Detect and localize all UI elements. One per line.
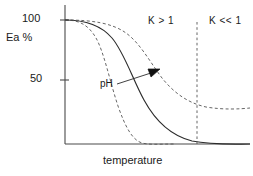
y-tick-label-50: 50	[30, 72, 42, 84]
x-axis-title: temperature	[103, 154, 162, 166]
curve-low-ph-dashed	[65, 20, 175, 144]
curve-high-ph-dashed	[65, 20, 250, 109]
curve-mid-ph-solid	[65, 20, 250, 144]
chart-figure: 100 50 Ea % temperature pH K > 1 K << 1	[0, 0, 253, 176]
chart-plot-area	[0, 0, 253, 176]
ph-annotation-label: pH	[100, 78, 113, 89]
y-tick-label-100: 100	[22, 12, 40, 24]
k-greater-than-one-label: K > 1	[148, 15, 174, 26]
k-much-less-than-one-label: K << 1	[209, 15, 241, 26]
y-axis-title: Ea %	[6, 31, 32, 43]
